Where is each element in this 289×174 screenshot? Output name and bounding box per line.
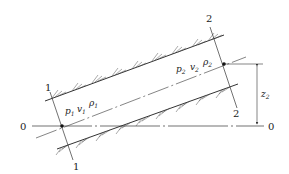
- datum-left-label: 0: [20, 121, 26, 132]
- pipe-flow-diagram: 1 1 2 2 0 0 p1 v1 ρ1 p2 v2 ρ2 z2: [0, 0, 289, 174]
- svg-text:ρ2: ρ2: [202, 57, 212, 68]
- svg-text:v2: v2: [190, 62, 199, 73]
- svg-text:ρ1: ρ1: [88, 98, 98, 109]
- section-1-top-label: 1: [45, 82, 51, 93]
- section-2-bottom-label: 2: [233, 108, 239, 119]
- section-1-bottom-label: 1: [73, 161, 79, 172]
- svg-text:p1: p1: [65, 106, 75, 117]
- section-1-centroid: [60, 124, 64, 128]
- section-1-variables: p1 v1 ρ1: [65, 98, 98, 117]
- z2-label: z2: [260, 89, 270, 100]
- svg-text:p2: p2: [176, 64, 186, 75]
- section-2-top-label: 2: [206, 13, 212, 24]
- section-2-line: [210, 27, 237, 108]
- datum-right-label: 0: [268, 121, 274, 132]
- svg-text:v1: v1: [77, 104, 86, 115]
